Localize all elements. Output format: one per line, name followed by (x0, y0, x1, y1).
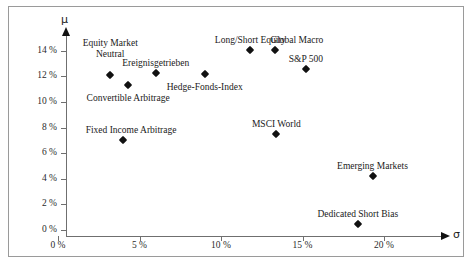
y-tick-label: 14 % (21, 45, 57, 55)
data-point-label-line: Convertible Arbitrage (87, 93, 170, 104)
y-tick-label: 0 % (21, 224, 57, 234)
y-tick-mark (61, 153, 66, 154)
data-point-label: Hedge-Fonds-Index (167, 82, 243, 93)
data-point (272, 130, 280, 138)
x-tick-label: 5 % (120, 240, 160, 250)
data-point-label: Global Macro (270, 35, 323, 46)
y-tick-mark (61, 51, 66, 52)
y-tick-mark (61, 179, 66, 180)
x-tick-label: 0 % (38, 240, 78, 250)
data-point-label-line: Emerging Markets (337, 161, 408, 172)
data-point (119, 136, 127, 144)
data-point-label-line: Equity Market (83, 38, 138, 49)
data-point (368, 172, 376, 180)
y-tick-mark (61, 76, 66, 77)
data-point-label-line: Ereignisgetrieben (122, 58, 189, 69)
y-tick-label: 10 % (21, 96, 57, 106)
x-axis-arrowhead (441, 232, 450, 240)
data-point-label-line: S&P 500 (289, 54, 323, 65)
data-point (152, 68, 160, 76)
data-point-label: Fixed Income Arbitrage (86, 125, 177, 136)
data-point (302, 64, 310, 72)
x-tick-label: 10 % (201, 240, 241, 250)
data-point-label-line: Dedicated Short Bias (317, 209, 398, 220)
data-point-label-line: Global Macro (270, 35, 323, 46)
data-point (246, 45, 254, 53)
y-tick-mark (61, 128, 66, 129)
y-tick-label: 6 % (21, 147, 57, 157)
data-point-label-line: MSCI World (252, 119, 301, 130)
y-axis-label: μ (61, 13, 68, 26)
y-tick-mark (61, 230, 66, 231)
data-point (354, 219, 362, 227)
x-axis-label: σ (453, 228, 460, 241)
data-point-label: Ereignisgetrieben (122, 58, 189, 69)
y-tick-label: 8 % (21, 122, 57, 132)
caption-strip (26, 263, 446, 275)
data-point (271, 45, 279, 53)
y-tick-mark (61, 204, 66, 205)
y-tick-label: 12 % (21, 70, 57, 80)
x-tick-label: 20 % (364, 240, 404, 250)
data-point (106, 71, 114, 79)
data-point (124, 81, 132, 89)
data-point-label: Convertible Arbitrage (87, 93, 170, 104)
data-point-label: Emerging Markets (337, 161, 408, 172)
plot-frame: μ σ 0 %2 %4 %6 %8 %10 %12 %14 % 0 %5 %10… (8, 6, 464, 257)
data-point-label-line: Fixed Income Arbitrage (86, 125, 177, 136)
y-axis-arrowhead (62, 27, 70, 36)
y-tick-label: 4 % (21, 173, 57, 183)
data-point-label-line: Hedge-Fonds-Index (167, 82, 243, 93)
x-axis-line (66, 236, 442, 237)
y-axis-line (66, 35, 67, 237)
data-point (200, 70, 208, 78)
x-tick-label: 15 % (283, 240, 323, 250)
y-tick-label: 2 % (21, 198, 57, 208)
data-point-label: Dedicated Short Bias (317, 209, 398, 220)
data-point-label: S&P 500 (289, 54, 323, 65)
data-point-label: MSCI World (252, 119, 301, 130)
chart-figure: μ σ 0 %2 %4 %6 %8 %10 %12 %14 % 0 %5 %10… (0, 0, 474, 277)
y-tick-mark (61, 102, 66, 103)
